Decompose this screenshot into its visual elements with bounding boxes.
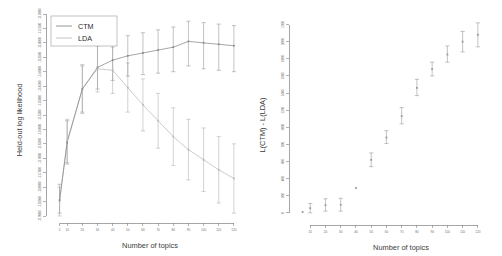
- y-tick-label: -116000: [38, 124, 42, 135]
- x-tick-label: 40: [354, 230, 358, 234]
- x-tick-label: 100: [445, 230, 450, 234]
- y-tick-label: -115000: [38, 95, 42, 106]
- y-tick-label: 2200: [281, 21, 285, 28]
- y-axis-title: L(CTM) - L(LDA): [258, 97, 267, 152]
- data-point: [325, 204, 327, 206]
- data-point: [142, 52, 144, 54]
- figure-container: -119000-118500-118000-117500-117000-1165…: [0, 0, 502, 256]
- data-point: [188, 41, 190, 43]
- x-axis: 102030405060708090100110120: [309, 225, 481, 234]
- x-tick-label: 10: [65, 228, 69, 232]
- y-tick-label: 600: [281, 159, 285, 164]
- x-tick-label: 90: [187, 228, 191, 232]
- y-tick-label: 1000: [281, 124, 285, 131]
- x-tick-label: 100: [201, 228, 206, 232]
- y-axis: -119000-118500-118000-117500-117000-1165…: [38, 8, 46, 221]
- y-tick-label: -117500: [38, 167, 42, 178]
- y-axis-title: Held-out log likelihood: [15, 84, 24, 157]
- series-polyline: [60, 41, 234, 200]
- x-tick-label: 110: [216, 228, 221, 232]
- data-point: [462, 41, 464, 43]
- data-point: [172, 136, 174, 138]
- data-point: [401, 115, 403, 117]
- x-tick-label: 110: [460, 230, 465, 234]
- data-point: [59, 199, 61, 201]
- y-tick-label: -113000: [38, 37, 42, 48]
- data-point: [112, 69, 114, 71]
- data-point: [203, 42, 205, 44]
- y-tick-label: 1400: [281, 89, 285, 96]
- data-point: [142, 104, 144, 106]
- difference-error-bars: [308, 23, 480, 213]
- data-point: [416, 87, 418, 89]
- legend-label-ctm: CTM: [78, 22, 94, 31]
- data-point: [81, 88, 83, 90]
- y-tick-label: -116500: [38, 138, 42, 149]
- x-tick-label: 60: [385, 230, 389, 234]
- data-point: [218, 43, 220, 45]
- y-tick-label: 1800: [281, 55, 285, 62]
- y-tick-label: 1600: [281, 72, 285, 79]
- x-tick-label: 80: [172, 228, 176, 232]
- y-tick-label: 400: [281, 176, 285, 181]
- data-point: [218, 169, 220, 171]
- likelihood-difference-plot: 0200400600800100012001400160018002000220…: [251, 0, 502, 256]
- chart-panel-held-out-likelihood: -119000-118500-118000-117500-117000-1165…: [0, 0, 251, 256]
- x-tick-label: 70: [156, 228, 160, 232]
- held-out-likelihood-plot: -119000-118500-118000-117500-117000-1165…: [0, 0, 251, 256]
- data-point: [157, 120, 159, 122]
- x-axis-title: Number of topics: [122, 241, 178, 250]
- data-point: [66, 142, 68, 144]
- x-tick-label: 10: [309, 230, 313, 234]
- data-point: [203, 159, 205, 161]
- x-tick-label: 20: [81, 228, 85, 232]
- y-tick-label: -114500: [38, 80, 42, 91]
- data-point: [97, 67, 99, 69]
- y-tick-label: -113500: [38, 51, 42, 62]
- lda-series-line: [60, 69, 234, 202]
- ctm-series-line: [60, 41, 234, 200]
- x-tick-label: 30: [96, 228, 100, 232]
- y-tick-label: -114000: [38, 66, 42, 77]
- data-point: [233, 45, 235, 47]
- x-tick-label: 60: [141, 228, 145, 232]
- chart-legend: CTM LDA: [51, 16, 117, 46]
- data-point: [127, 87, 129, 89]
- x-tick-label: 30: [339, 230, 343, 234]
- data-point: [370, 159, 372, 161]
- x-tick-label: 90: [430, 230, 434, 234]
- data-point: [172, 46, 174, 48]
- y-tick-label: -119000: [38, 210, 42, 221]
- data-point: [112, 59, 114, 61]
- data-point: [446, 54, 448, 56]
- data-point: [477, 34, 479, 36]
- data-points: [59, 41, 235, 203]
- y-tick-label: -118000: [38, 181, 42, 192]
- x-tick-label: 20: [324, 230, 328, 234]
- data-point: [309, 207, 311, 209]
- x-tick-label: 120: [231, 228, 236, 232]
- y-tick-label: 200: [281, 193, 285, 198]
- series-polyline: [60, 69, 234, 202]
- data-point: [157, 49, 159, 51]
- x-axis: 5102030405060708090100110120: [59, 223, 237, 232]
- data-point: [302, 211, 304, 213]
- y-tick-label: -117000: [38, 152, 42, 163]
- x-tick-label: 5: [59, 228, 61, 232]
- x-axis-title: Number of topics: [373, 243, 429, 252]
- data-point: [431, 68, 433, 70]
- y-tick-label: -112500: [38, 23, 42, 34]
- chart-panel-likelihood-difference: 0200400600800100012001400160018002000220…: [251, 0, 502, 256]
- data-point: [355, 187, 357, 189]
- y-tick-label: -115500: [38, 109, 42, 120]
- lda-error-bars: [57, 46, 236, 216]
- x-tick-label: 50: [369, 230, 373, 234]
- y-tick-label: 800: [281, 142, 285, 147]
- y-tick-label: -118500: [38, 196, 42, 207]
- ctm-error-bars: [57, 21, 236, 213]
- y-tick-label: 1200: [281, 106, 285, 113]
- y-axis: 0200400600800100012001400160018002000220…: [281, 21, 289, 214]
- x-tick-label: 70: [400, 230, 404, 234]
- data-point: [188, 149, 190, 151]
- x-tick-label: 120: [475, 230, 480, 234]
